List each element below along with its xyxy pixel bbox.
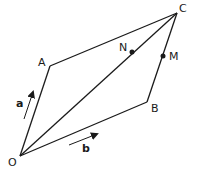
point-n-dot — [130, 50, 135, 55]
label-a-point: A — [38, 56, 46, 69]
label-n: N — [119, 41, 127, 54]
label-o: O — [8, 156, 17, 169]
edge-ac — [50, 13, 177, 66]
label-vector-a: a — [16, 97, 23, 110]
label-m: M — [169, 50, 179, 63]
label-b-point: B — [151, 102, 159, 115]
parallelogram-diagram: O A C B N M a b — [0, 0, 197, 177]
vector-a-arrow-icon — [24, 92, 33, 119]
point-m-dot — [161, 54, 166, 59]
label-c: C — [179, 2, 187, 15]
label-vector-b: b — [82, 142, 90, 155]
